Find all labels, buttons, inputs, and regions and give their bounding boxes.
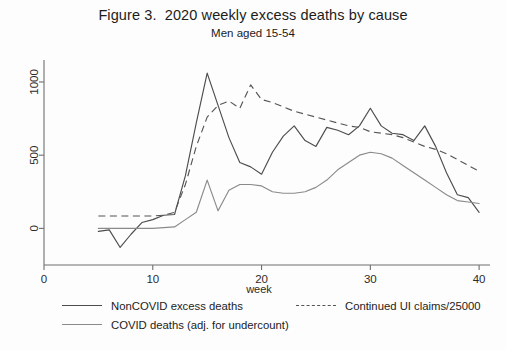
series-line-covid — [98, 152, 479, 228]
legend-label-noncovid: NonCOVID excess deaths — [111, 300, 243, 312]
figure-container: Figure 3. 2020 weekly excess deaths by c… — [0, 0, 506, 350]
x-tick-label: 30 — [364, 273, 377, 285]
legend-line-swatch-ui-claims — [296, 301, 336, 311]
y-tick-label: 500 — [28, 146, 40, 165]
y-tick-label: 1000 — [28, 69, 40, 95]
y-tick-label: 0 — [28, 225, 40, 231]
legend-line-swatch-covid — [62, 320, 102, 330]
x-tick-label: 0 — [41, 273, 47, 285]
legend-label-ui-claims: Continued UI claims/25000 — [345, 300, 481, 312]
legend-label-covid: COVID deaths (adj. for undercount) — [111, 319, 289, 331]
series-line-noncovid — [98, 73, 479, 247]
legend-line-swatch-noncovid — [62, 301, 102, 311]
legend-item-covid: COVID deaths (adj. for undercount) — [62, 319, 289, 331]
chart-legend: NonCOVID excess deaths Continued UI clai… — [0, 298, 506, 346]
x-axis-title: week — [245, 283, 272, 295]
x-axis: 010203040 week — [41, 265, 490, 295]
x-tick-label: 10 — [146, 273, 159, 285]
legend-item-noncovid: NonCOVID excess deaths — [62, 300, 243, 312]
x-tick-label: 40 — [473, 273, 486, 285]
y-axis-ticks: 05001000 — [28, 69, 44, 231]
x-axis-ticks: 010203040 — [41, 265, 486, 285]
y-axis: 05001000 — [28, 60, 44, 265]
series-layer — [98, 73, 479, 247]
series-line-ui-claims — [98, 85, 479, 216]
legend-item-ui-claims: Continued UI claims/25000 — [296, 300, 481, 312]
